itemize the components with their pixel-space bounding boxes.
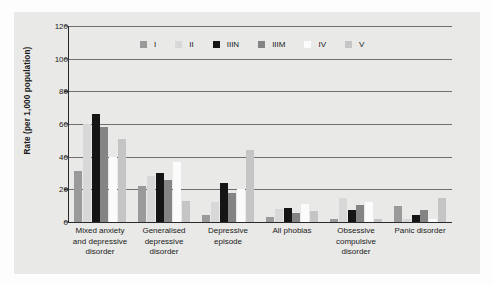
bar-group (68, 26, 132, 222)
legend-item-IV[interactable]: IV (304, 40, 326, 49)
x-tick-label-3: All phobias (260, 226, 324, 258)
bar-V-4 (374, 219, 382, 222)
legend-swatch-icon (175, 41, 182, 48)
legend-label: V (359, 40, 364, 49)
bar-II-3 (275, 209, 283, 222)
x-tick-label-line: Obsessive (324, 226, 388, 237)
bar-II-4 (339, 198, 347, 223)
bar-IV-1 (173, 162, 181, 222)
bar-I-0 (74, 171, 82, 222)
bar-IIIN-1 (156, 173, 164, 222)
bar-IV-0 (109, 157, 117, 222)
x-tick-label-4: Obsessivecompulsivedisorder (324, 226, 388, 258)
legend-label: IIIM (272, 40, 285, 49)
bar-IV-3 (301, 204, 309, 222)
x-tick-label-line: and depressive (68, 237, 132, 248)
legend-label: I (154, 40, 156, 49)
bar-groups (68, 26, 452, 222)
x-tick-label-line: All phobias (260, 226, 324, 237)
bar-II-2 (211, 202, 219, 222)
legend-label: II (189, 40, 193, 49)
bar-IV-5 (429, 219, 437, 222)
x-tick-label-line: Generalised (132, 226, 196, 237)
legend-item-V[interactable]: V (345, 40, 364, 49)
bar-IV-4 (365, 202, 373, 222)
bar-IIIM-4 (356, 205, 364, 222)
gridline-0 (68, 222, 452, 223)
x-axis-labels: Mixed anxietyand depressivedisorderGener… (68, 226, 452, 258)
x-tick-label-line: depressive (132, 237, 196, 248)
legend-swatch-icon (345, 41, 352, 48)
y-axis-ticks: 020406080100120 (30, 26, 68, 222)
bar-IV-2 (237, 189, 245, 222)
x-tick-label-line: Depressive (196, 226, 260, 237)
bar-IIIN-5 (412, 215, 420, 222)
bar-I-2 (202, 215, 210, 222)
bar-IIIM-0 (100, 127, 108, 222)
bar-IIIM-3 (292, 213, 300, 222)
bar-group (324, 26, 388, 222)
legend-item-I[interactable]: I (140, 40, 156, 49)
legend-item-II[interactable]: II (175, 40, 193, 49)
legend-swatch-icon (213, 41, 220, 48)
bar-IIIN-3 (284, 208, 292, 222)
bar-IIIM-1 (164, 180, 172, 222)
x-tick-label-line: compulsive (324, 237, 388, 248)
x-tick-label-line: disorder (324, 247, 388, 258)
bar-group (388, 26, 452, 222)
legend-swatch-icon (258, 41, 265, 48)
x-tick-label-line: episode (196, 237, 260, 248)
bar-I-4 (330, 219, 338, 222)
legend-label: IV (318, 40, 326, 49)
bar-V-0 (118, 139, 126, 222)
bar-IIIN-0 (92, 114, 100, 222)
x-tick-label-line: Mixed anxiety (68, 226, 132, 237)
x-tick-label-2: Depressiveepisode (196, 226, 260, 258)
x-tick-label-line: Panic disorder (388, 226, 452, 237)
bar-group (196, 26, 260, 222)
bar-II-0 (83, 124, 91, 222)
bar-V-1 (182, 201, 190, 222)
x-tick-label-5: Panic disorder (388, 226, 452, 258)
bar-IIIM-2 (228, 193, 236, 222)
bar-IIIM-5 (420, 210, 428, 222)
x-tick-label-1: Generaliseddepressivedisorder (132, 226, 196, 258)
bar-I-1 (138, 186, 146, 222)
x-tick-label-line: disorder (68, 247, 132, 258)
bar-V-5 (438, 198, 446, 222)
chart-figure: Rate (per 1,000 population) 020406080100… (0, 0, 493, 285)
bar-IIIN-4 (348, 210, 356, 222)
chart-legend: IIIIIINIIIMIVV (140, 40, 383, 49)
legend-swatch-icon (140, 41, 147, 48)
bar-V-3 (310, 211, 318, 222)
bar-I-3 (266, 217, 274, 222)
x-tick-label-0: Mixed anxietyand depressivedisorder (68, 226, 132, 258)
bar-group (132, 26, 196, 222)
bar-I-5 (394, 206, 402, 222)
bar-II-5 (403, 219, 411, 222)
legend-item-IIIM[interactable]: IIIM (258, 40, 285, 49)
legend-item-IIIN[interactable]: IIIN (213, 40, 239, 49)
x-tick-label-line: disorder (132, 247, 196, 258)
bar-II-1 (147, 176, 155, 222)
bar-group (260, 26, 324, 222)
legend-label: IIIN (227, 40, 239, 49)
legend-swatch-icon (304, 41, 311, 48)
bar-V-2 (246, 150, 254, 222)
bar-IIIN-2 (220, 183, 228, 222)
